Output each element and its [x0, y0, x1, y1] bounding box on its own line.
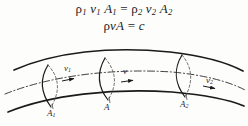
cross-section-a-front-arc: [99, 58, 108, 100]
label-velocity-v1: v1: [64, 63, 71, 73]
cross-section-a1-back-arc: [48, 65, 57, 107]
cross-section-a-back-arc: [105, 58, 114, 100]
label-area-a1: A1: [47, 108, 55, 118]
velocity-arrow-v1: [62, 79, 74, 82]
tube-bottom-wall: [8, 91, 244, 112]
stream-tube-diagram: [0, 0, 248, 126]
velocity-arrow-v: [121, 80, 133, 82]
label-velocity-v2: v2: [206, 75, 213, 85]
label-area-a2: A2: [180, 99, 188, 109]
cross-section-a2-back-arc: [182, 55, 191, 97]
tube-top-wall: [14, 50, 243, 71]
cross-section-a2-front-arc: [176, 55, 185, 97]
label-area-a: A: [104, 102, 110, 112]
label-velocity-v: v: [123, 66, 127, 76]
velocity-arrow-v2: [203, 86, 215, 89]
